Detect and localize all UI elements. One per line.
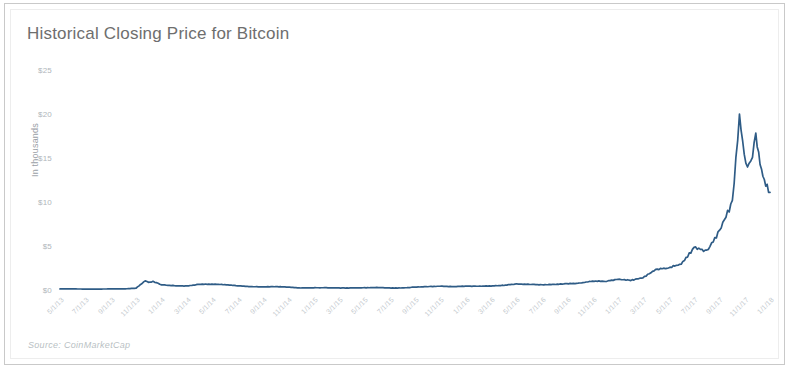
bitcoin-price-line <box>0 0 790 369</box>
plot-area: $0$5$10$15$20$25 5/1/137/1/139/1/1311/1/… <box>0 0 790 369</box>
price-series-path <box>60 114 770 289</box>
source-attribution: Source: CoinMarketCap <box>28 340 130 350</box>
chart-screenshot: Historical Closing Price for Bitcoin In … <box>0 0 790 369</box>
